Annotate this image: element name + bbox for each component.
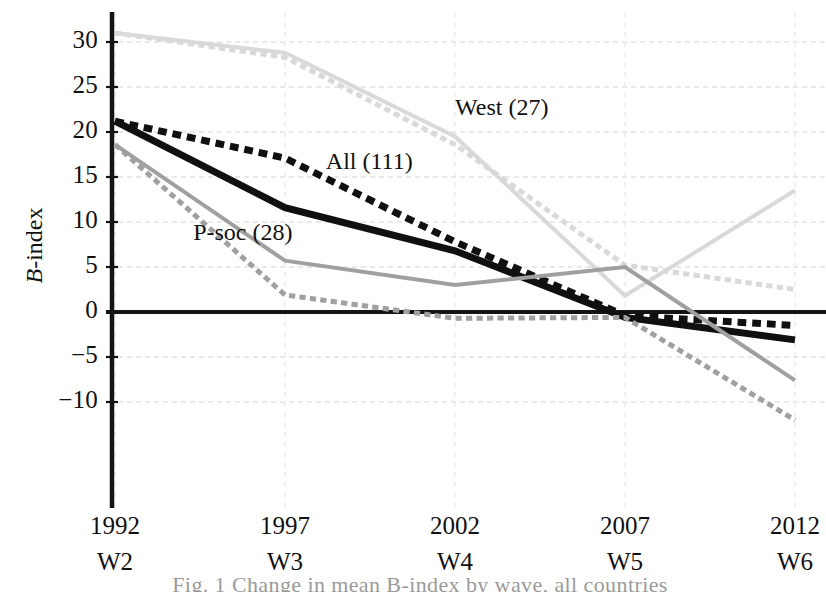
figure-caption: Fig. 1 Change in mean B-index by wave, a… [80,572,760,592]
y-tick-label: 5 [10,251,98,279]
series-annotation-label: All (111) [326,148,413,175]
series-annotation-label: P-soc (28) [193,219,292,246]
x-tick-year-label: 2012 [735,512,826,540]
y-tick-label: 25 [10,71,98,99]
y-tick-label: 15 [10,161,98,189]
series-annotation-label: West (27) [455,94,548,121]
y-tick-label: 0 [10,296,98,324]
plot-area [0,0,826,592]
y-tick-label: 20 [10,116,98,144]
x-tick-year-label: 1997 [225,512,345,540]
x-tick-year-label: 2002 [395,512,515,540]
y-tick-label: 10 [10,206,98,234]
x-tick-year-label: 1992 [55,512,175,540]
y-tick-label: 30 [10,26,98,54]
grid-lines [109,12,826,508]
y-tick-label: −10 [10,386,98,414]
y-axis-line [106,12,118,508]
y-tick-label: −5 [10,341,98,369]
x-tick-year-label: 2007 [565,512,685,540]
chart-figure: B-index 302520151050−5−10 1992W21997W320… [0,0,826,592]
